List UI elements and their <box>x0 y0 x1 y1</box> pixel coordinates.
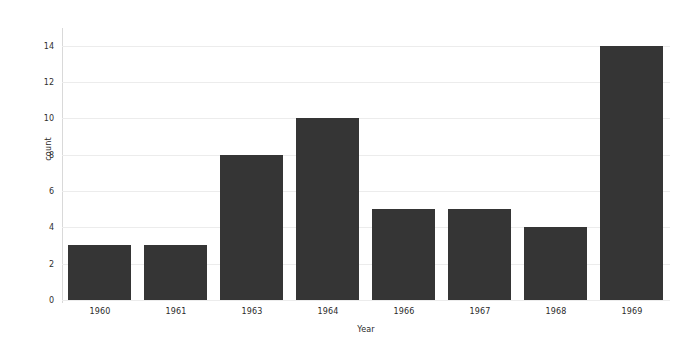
y-tick-label: 0 <box>14 296 54 305</box>
bar <box>296 118 359 300</box>
x-tick-label: 1960 <box>62 307 138 316</box>
gridline <box>62 300 670 301</box>
y-tick-label: 14 <box>14 42 54 51</box>
x-tick-label: 1969 <box>594 307 670 316</box>
x-tick-label: 1961 <box>138 307 214 316</box>
bar-chart: count 02468101214 1960196119631964196619… <box>0 0 699 349</box>
y-tick-label: 8 <box>14 151 54 160</box>
y-tick-label: 2 <box>14 260 54 269</box>
y-tick-label: 6 <box>14 187 54 196</box>
x-tick-label: 1968 <box>518 307 594 316</box>
y-tick-label: 12 <box>14 78 54 87</box>
x-tick-label: 1967 <box>442 307 518 316</box>
bar <box>68 245 131 300</box>
x-tick-label: 1966 <box>366 307 442 316</box>
bar <box>448 209 511 300</box>
bar <box>524 227 587 300</box>
bar <box>372 209 435 300</box>
x-tick-label: 1964 <box>290 307 366 316</box>
bar <box>144 245 207 300</box>
plot-area <box>62 31 670 300</box>
x-tick-label: 1963 <box>214 307 290 316</box>
bar <box>220 155 283 300</box>
y-tick-label: 4 <box>14 223 54 232</box>
x-axis-title: Year <box>62 325 670 334</box>
y-axis-title: count <box>44 119 53 179</box>
y-tick-label: 10 <box>14 114 54 123</box>
bar <box>600 46 663 300</box>
